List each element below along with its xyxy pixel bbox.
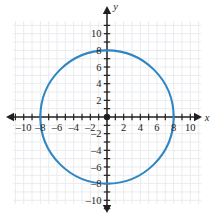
x-tick-label-10: 10 (185, 122, 196, 133)
x-tick-label-2: 2 (121, 122, 126, 133)
y-tick-label-6: 6 (96, 62, 101, 73)
x-tick-label-8: 8 (171, 122, 176, 133)
origin-point-marker (104, 114, 110, 120)
origin-dot (104, 114, 110, 120)
x-tick-label-4: 4 (138, 122, 144, 133)
y-tick-label-2: 2 (96, 95, 101, 106)
y-tick-label-4: 4 (96, 78, 102, 89)
x-tick-label-neg10: –10 (15, 122, 32, 133)
y-tick-label-neg6: –6 (90, 162, 102, 173)
x-axis-arrow-left (6, 113, 14, 121)
y-tick-label-neg10: –10 (85, 195, 102, 206)
y-tick-label-neg2: –2 (90, 128, 102, 139)
y-axis-name: y (112, 1, 118, 12)
x-tick-label-neg4: –4 (67, 122, 79, 133)
coordinate-plane-figure: –10–8–6–4–2246810108642–2–4–6–8–10xy (0, 0, 215, 218)
y-tick-label-neg4: –4 (90, 145, 102, 156)
y-tick-label-neg8: –8 (90, 178, 102, 189)
x-tick-label-6: 6 (154, 122, 159, 133)
circle-graph-svg: –10–8–6–4–2246810108642–2–4–6–8–10xy (0, 0, 215, 218)
y-tick-label-10: 10 (91, 28, 102, 39)
x-axis-arrow-right (194, 113, 202, 121)
x-tick-label-neg6: –6 (51, 122, 63, 133)
y-tick-label-8: 8 (96, 45, 101, 56)
x-axis-name: x (204, 112, 210, 123)
y-axis-arrow-up (103, 6, 111, 14)
x-tick-label-neg8: –8 (34, 122, 46, 133)
